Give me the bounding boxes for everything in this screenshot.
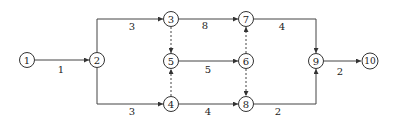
- node-9: 9: [309, 54, 324, 69]
- edge-label-2-4: 3: [129, 106, 135, 117]
- edge-2-4: [97, 68, 163, 104]
- edge-label-9-10: 2: [337, 66, 343, 77]
- node-3: 3: [164, 12, 179, 27]
- node-5: 5: [164, 54, 179, 69]
- node-10: 10: [362, 53, 378, 69]
- edge-label-3-7: 8: [202, 20, 208, 31]
- network-diagram: 1 3 3 8 4 5 4 2 2 1 2 3 4 5 6: [0, 0, 396, 124]
- node-8: 8: [239, 97, 254, 112]
- svg-text:6: 6: [243, 56, 249, 67]
- edge-label-5-6: 5: [205, 64, 211, 75]
- svg-text:5: 5: [168, 56, 174, 67]
- node-4: 4: [164, 97, 179, 112]
- svg-text:7: 7: [243, 14, 249, 25]
- svg-text:10: 10: [364, 56, 376, 66]
- svg-text:3: 3: [168, 14, 174, 25]
- svg-text:2: 2: [94, 55, 100, 66]
- svg-text:9: 9: [313, 56, 319, 67]
- edge-8-9: [254, 69, 316, 104]
- node-2: 2: [90, 53, 105, 68]
- node-7: 7: [239, 12, 254, 27]
- edge-label-1-2: 1: [58, 64, 64, 75]
- svg-text:1: 1: [24, 55, 30, 66]
- node-6: 6: [239, 54, 254, 69]
- node-1: 1: [20, 53, 35, 68]
- svg-text:4: 4: [168, 99, 174, 110]
- edge-label-4-8: 4: [205, 106, 211, 117]
- edge-label-8-9: 2: [275, 106, 281, 117]
- diagram-svg: 1 3 3 8 4 5 4 2 2 1 2 3 4 5 6: [0, 0, 396, 124]
- edge-label-2-3: 3: [129, 21, 135, 32]
- svg-text:8: 8: [243, 99, 249, 110]
- edge-label-7-9: 4: [279, 21, 285, 32]
